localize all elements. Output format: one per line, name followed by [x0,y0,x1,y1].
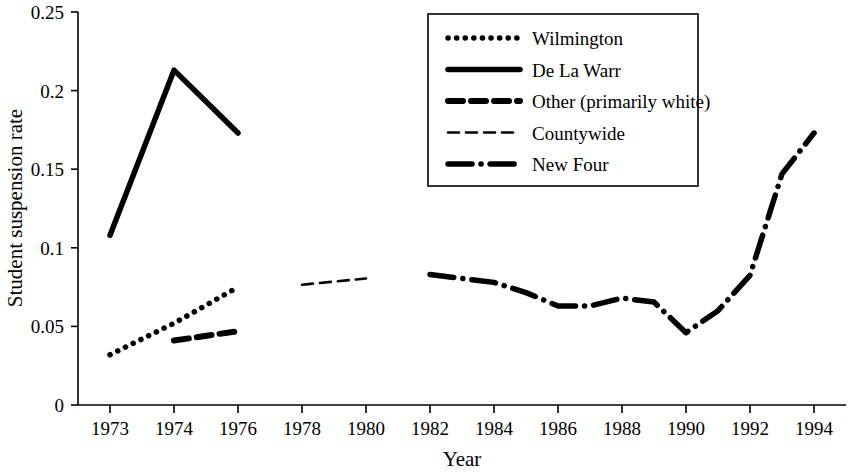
legend-label: New Four [532,154,609,175]
x-tick-label: 1994 [795,418,834,439]
x-tick-label: 1988 [603,418,641,439]
y-axis-title: Student suspension rate [3,109,27,307]
line-chart: 00.050.10.150.20.25 19731974197619781980… [0,0,854,472]
x-tick-label: 1976 [219,418,257,439]
x-tick-label: 1986 [539,418,577,439]
y-axis-ticks [71,12,78,405]
x-tick-label: 1992 [731,418,769,439]
chart-container: 00.050.10.150.20.25 19731974197619781980… [0,0,854,472]
legend-label: Countywide [532,123,625,144]
x-axis-tick-labels: 1973197419761978198019821984198619881990… [91,418,834,439]
y-tick-label: 0.25 [31,2,64,23]
chart-legend: WilmingtonDe La WarrOther (primarily whi… [428,14,710,186]
x-tick-label: 1982 [411,418,449,439]
y-tick-label: 0.2 [40,81,64,102]
x-tick-label: 1973 [91,418,129,439]
series-line-countywide [302,278,366,284]
x-tick-label: 1984 [475,418,514,439]
y-tick-label: 0.1 [40,238,64,259]
x-tick-label: 1990 [667,418,705,439]
series-line-wilmington [110,287,238,355]
legend-label: Other (primarily white) [532,91,710,113]
legend-label: De La Warr [532,60,622,81]
x-axis-title: Year [443,447,482,471]
y-tick-label: 0 [55,395,65,416]
legend-label: Wilmington [532,28,624,49]
x-axis-ticks [110,405,814,413]
y-tick-label: 0.05 [31,316,64,337]
y-axis-tick-labels: 00.050.10.150.20.25 [31,2,64,416]
x-tick-label: 1974 [155,418,194,439]
series-line-other-primarily-white [174,331,238,340]
y-tick-label: 0.15 [31,159,64,180]
x-tick-label: 1980 [347,418,385,439]
x-tick-label: 1978 [283,418,321,439]
series-line-de-la-warr [110,70,238,235]
